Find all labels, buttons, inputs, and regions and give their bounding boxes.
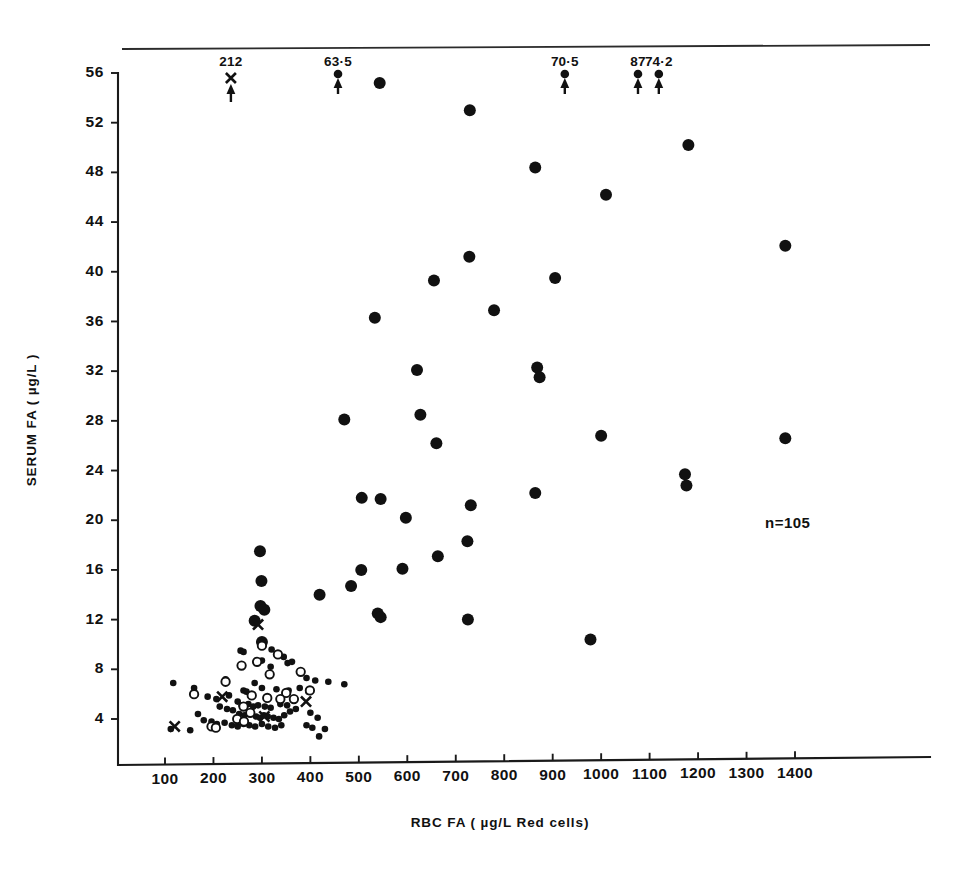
data-point-filled-circle <box>549 272 561 284</box>
data-point-filled-circle <box>430 437 442 449</box>
y-tick-label: 48 <box>86 162 104 179</box>
data-point-filled-circle <box>529 161 541 173</box>
data-point-filled-circle <box>462 614 474 626</box>
data-point-filled-circle <box>682 139 694 151</box>
x-tick-label: 600 <box>394 767 421 784</box>
data-point-filled-circle <box>411 364 423 376</box>
offscale-value-label: 87 <box>630 54 645 69</box>
data-point-filled-circle <box>465 499 477 511</box>
data-point-filled-circle <box>216 703 223 710</box>
data-point-filled-circle <box>355 564 367 576</box>
top-border-rule <box>122 45 930 49</box>
data-point-filled-circle <box>303 722 310 729</box>
y-tick-label: 56 <box>86 63 104 80</box>
x-tick-label: 1400 <box>777 764 813 781</box>
offscale-value-label: 212 <box>219 54 242 69</box>
data-point-filled-circle <box>265 723 272 730</box>
offscale-arrow-annotations: 21263·570·58774·2 <box>219 54 672 102</box>
data-point-open-circle <box>248 691 256 699</box>
offscale-marker-cross <box>226 73 236 83</box>
data-point-filled-circle <box>375 611 387 623</box>
scatter-plot-figure: 48121620242832364044485256 1002003004005… <box>0 0 955 874</box>
data-point-filled-circle <box>529 487 541 499</box>
y-tick-label: 24 <box>86 461 104 478</box>
data-point-filled-circle <box>374 77 386 89</box>
offscale-value-label: 74·2 <box>645 54 673 69</box>
data-point-open-circle <box>296 668 304 676</box>
data-point-filled-circle <box>224 706 231 713</box>
offscale-annotation: 74·2 <box>645 54 673 94</box>
data-point-filled-circle <box>287 708 294 715</box>
data-point-filled-circle <box>267 664 274 671</box>
offscale-arrow-head <box>227 84 236 94</box>
data-point-filled-circle <box>414 409 426 421</box>
data-point-filled-circle <box>200 717 207 724</box>
data-point-filled-circle <box>584 633 596 645</box>
offscale-arrow-head <box>560 78 569 88</box>
y-tick-label: 40 <box>86 262 104 279</box>
data-point-filled-circle <box>289 659 296 666</box>
data-point-filled-circle <box>258 604 270 616</box>
data-point-open-circle <box>237 661 245 669</box>
y-tick-label: 32 <box>86 361 104 378</box>
series-open-circle <box>190 642 314 732</box>
series-filled-large <box>249 77 792 648</box>
data-point-filled-circle <box>240 649 247 656</box>
data-point-filled-circle <box>267 705 274 712</box>
y-tick-label: 8 <box>95 659 104 676</box>
x-tick-label: 1000 <box>583 765 619 782</box>
data-point-filled-circle <box>259 685 266 692</box>
data-point-filled-circle <box>255 702 262 709</box>
data-point-filled-circle <box>488 304 500 316</box>
data-point-open-circle <box>246 709 254 717</box>
x-axis-tick-labels: 1002003004005006007008009001000110012001… <box>151 764 813 787</box>
offscale-value-label: 70·5 <box>551 54 579 69</box>
data-point-filled-circle <box>680 479 692 491</box>
x-tick-label: 800 <box>491 766 518 783</box>
data-point-filled-circle <box>252 723 259 730</box>
y-tick-label: 12 <box>86 610 104 627</box>
data-point-filled-circle <box>400 512 412 524</box>
data-point-cross <box>217 692 227 702</box>
data-point-filled-circle <box>534 371 546 383</box>
data-point-filled-circle <box>273 686 280 693</box>
x-tick-label: 700 <box>442 767 469 784</box>
offscale-arrow-head <box>634 78 643 88</box>
data-point-open-circle <box>263 694 271 702</box>
data-point-filled-circle <box>341 681 348 688</box>
data-point-filled-circle <box>600 189 612 201</box>
data-point-filled-circle <box>187 727 194 734</box>
scatter-plot-canvas: 48121620242832364044485256 1002003004005… <box>0 0 955 874</box>
data-point-filled-circle <box>255 575 267 587</box>
sample-size-label: n=105 <box>765 514 810 531</box>
data-point-filled-circle <box>296 685 303 692</box>
data-point-open-circle <box>190 690 198 698</box>
data-point-filled-circle <box>679 468 691 480</box>
offscale-arrow-head <box>654 78 663 88</box>
data-point-filled-circle <box>281 712 288 719</box>
offscale-marker-filled-circle <box>634 70 643 79</box>
offscale-annotation: 212 <box>219 54 242 102</box>
x-tick-label: 1100 <box>632 765 667 782</box>
offscale-marker-filled-circle <box>334 70 343 79</box>
data-point-filled-circle <box>779 240 791 252</box>
data-point-filled-circle <box>314 589 326 601</box>
data-point-filled-circle <box>375 493 387 505</box>
offscale-annotation: 70·5 <box>551 54 579 94</box>
data-point-filled-circle <box>284 702 291 709</box>
data-point-open-circle <box>274 650 282 658</box>
data-point-open-circle <box>221 678 229 686</box>
data-point-filled-circle <box>251 680 258 687</box>
x-tick-label: 300 <box>248 769 275 786</box>
data-point-open-circle <box>258 642 266 650</box>
y-axis-title: SERUM FA ( µg/L ) <box>24 354 39 487</box>
data-point-open-circle <box>276 695 284 703</box>
data-point-filled-circle <box>369 312 381 324</box>
offscale-marker-filled-circle <box>655 70 664 79</box>
data-point-filled-circle <box>779 432 791 444</box>
data-point-filled-circle <box>396 563 408 575</box>
x-tick-label: 100 <box>151 770 178 787</box>
data-point-filled-circle <box>230 707 237 714</box>
y-tick-label: 28 <box>86 411 104 428</box>
data-point-filled-circle <box>338 414 350 426</box>
